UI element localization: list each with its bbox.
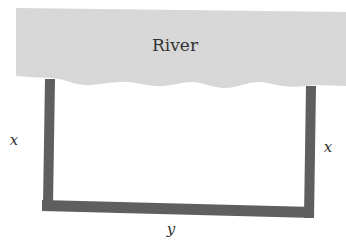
river-label: River [152, 35, 199, 55]
river: River [16, 8, 346, 88]
river-fence-diagram: River x x y [0, 0, 346, 248]
fence-right-side [304, 86, 316, 218]
bottom-side-label: y [166, 220, 176, 238]
fence-left-side [43, 79, 55, 205]
right-side-label: x [324, 138, 333, 156]
left-side-label: x [10, 131, 19, 149]
fence [42, 79, 316, 218]
fence-bottom-side [42, 200, 314, 218]
